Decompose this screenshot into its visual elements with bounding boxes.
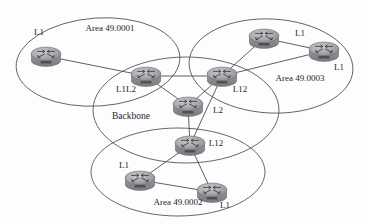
router-label-r2: L1L2 — [116, 84, 136, 94]
router-label-r7: L12 — [209, 138, 224, 148]
area-label-area-49-0002: Area 49.0002 — [154, 197, 203, 207]
router-label-r3: L1 — [295, 28, 305, 38]
router-icon-r1[interactable] — [31, 47, 61, 67]
router-icon-r6[interactable] — [173, 97, 203, 117]
router-label-r8: L1 — [119, 160, 129, 170]
router-icon-r8[interactable] — [125, 171, 155, 191]
router-label-r6: L2 — [213, 105, 223, 115]
router-icon-r7[interactable] — [175, 136, 205, 156]
routers-group — [31, 29, 339, 203]
router-icon-r4[interactable] — [309, 42, 339, 62]
router-label-r1: L1 — [34, 27, 44, 37]
area-label-area-49-0001: Area 49.0001 — [86, 23, 135, 33]
router-label-r4: L1 — [334, 62, 344, 72]
network-topology-diagram: Area 49.0001Area 49.0003BackboneArea 49.… — [0, 0, 367, 224]
router-icon-r3[interactable] — [249, 29, 279, 49]
router-label-r9: L1 — [220, 200, 230, 210]
area-label-backbone: Backbone — [112, 111, 150, 121]
area-label-area-49-0003: Area 49.0003 — [276, 73, 325, 83]
router-label-r5: L12 — [233, 84, 248, 94]
topology-canvas: Area 49.0001Area 49.0003BackboneArea 49.… — [0, 0, 367, 224]
